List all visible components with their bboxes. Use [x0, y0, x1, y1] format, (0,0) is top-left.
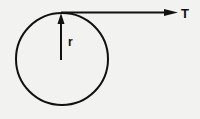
radius-arrowhead-icon — [58, 13, 65, 24]
diagram-canvas: r T — [0, 0, 200, 119]
tangent-arrowhead-icon — [164, 9, 178, 16]
tension-label: T — [181, 6, 189, 21]
radius-label: r — [68, 35, 73, 49]
